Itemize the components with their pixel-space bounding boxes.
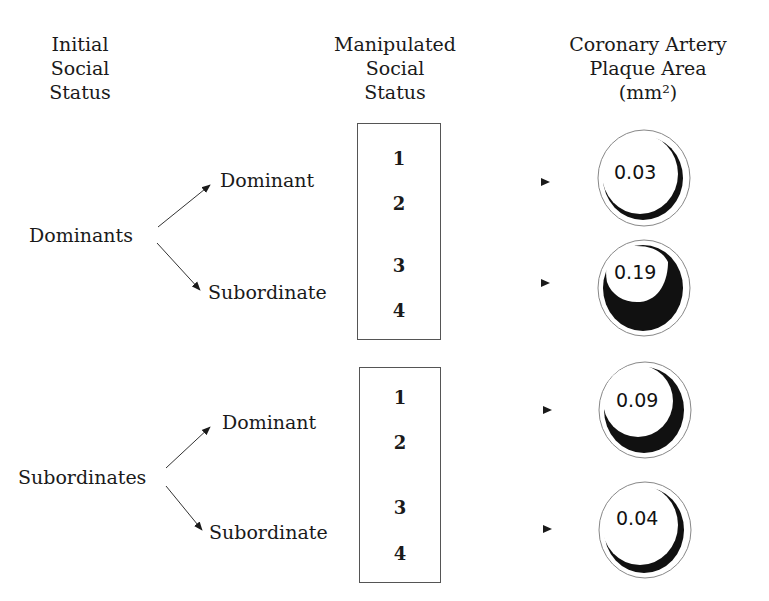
weeks-box-2: 1 2 3 4: [359, 367, 441, 583]
manipulated-status-subordinate: Subordinate: [208, 281, 327, 303]
week-number: 2: [360, 433, 440, 453]
plaque-value: 0.09: [616, 389, 658, 411]
week-number: 3: [360, 498, 440, 518]
plaque-value: 0.19: [614, 261, 656, 283]
manipulated-status-dominant: Dominant: [222, 411, 316, 433]
pointer-triangle: [543, 406, 552, 414]
arrow-subordinates-to-dominant: [166, 427, 210, 468]
initial-status-subordinates: Subordinates: [18, 466, 146, 488]
arrow-dominants-to-dominant: [158, 185, 210, 227]
week-number: 1: [360, 388, 440, 408]
plaque-cross-section-4: [599, 482, 691, 578]
arrow-subordinates-to-subordinate: [166, 486, 202, 530]
plaque-cross-section-2: [598, 240, 690, 336]
arrow-dominants-to-subordinate: [157, 243, 200, 290]
manipulated-status-dominant: Dominant: [220, 169, 314, 191]
week-number: 3: [358, 256, 440, 276]
plaque-value: 0.03: [614, 161, 656, 183]
pointer-triangle: [541, 279, 550, 287]
week-number: 2: [358, 194, 440, 214]
week-number: 4: [358, 301, 440, 321]
week-number: 4: [360, 544, 440, 564]
weeks-box-1: 1 2 3 4: [357, 123, 441, 340]
pointer-triangle: [543, 525, 552, 533]
initial-status-dominants: Dominants: [29, 224, 133, 246]
plaque-value: 0.04: [616, 507, 658, 529]
pointer-triangle: [541, 178, 550, 186]
manipulated-status-subordinate: Subordinate: [209, 521, 328, 543]
week-number: 1: [358, 149, 440, 169]
